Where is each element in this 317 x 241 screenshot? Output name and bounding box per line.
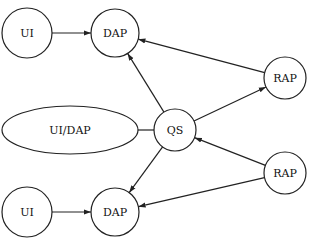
node-label: RAP [273, 167, 297, 180]
edge-qs-to-dap_top [128, 53, 164, 112]
node-label: UI [20, 206, 34, 219]
node-ui_top: UI [2, 8, 52, 58]
node-dap_top: DAP [91, 9, 139, 57]
edge-qs-to-rap_top [194, 87, 266, 121]
node-label: UI/DAP [49, 124, 91, 137]
node-label: UI [20, 27, 34, 40]
node-rap_top: RAP [264, 57, 306, 99]
node-label: DAP [103, 206, 128, 219]
node-label: QS [167, 124, 184, 137]
edge-rap_top-to-dap_top [138, 39, 264, 72]
node-ui_bottom: UI [2, 187, 52, 237]
node-rap_bottom: RAP [264, 152, 306, 194]
edge-rap_bottom-to-dap_bottom [138, 178, 264, 207]
architecture-diagram: UIDAPRAPUI/DAPQSRAPUIDAP [0, 0, 317, 241]
node-qs: QS [154, 109, 196, 151]
node-label: DAP [103, 27, 128, 40]
edge-qs-to-dap_bottom [129, 147, 162, 193]
node-uidap: UI/DAP [2, 106, 138, 154]
node-dap_bottom: DAP [91, 188, 139, 236]
node-label: RAP [273, 72, 297, 85]
edge-rap_bottom-to-qs [195, 138, 266, 166]
